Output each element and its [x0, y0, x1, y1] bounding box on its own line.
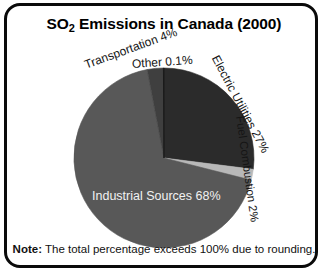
pie-label-fuel-combustion: Fuel Combustion 2%	[234, 115, 261, 222]
footnote-prefix: Note:	[13, 243, 42, 255]
pie-label-industrial-sources: Industrial Sources 68%	[92, 189, 221, 203]
pie-slice-transportation	[147, 68, 164, 158]
pie-slices	[74, 68, 254, 248]
pie-slice-electric-utilities	[164, 68, 254, 169]
pie-slice-industrial-sources	[74, 70, 251, 248]
pie-label-other: Other 0.1%	[132, 53, 194, 71]
chart-screenshot: SO2 Emissions in Canada (2000)	[0, 0, 322, 273]
pie-svg	[7, 6, 321, 271]
chart-footnote: Note: The total percentage exceeds 100% …	[7, 243, 321, 255]
pie-chart-plot: Transportation 4% Other 0.1% Electric Ut…	[7, 6, 321, 271]
chart-title-subscript: 2	[69, 22, 75, 34]
pie-slice-fuel-combustion	[164, 158, 253, 180]
chart-title: SO2 Emissions in Canada (2000)	[7, 15, 321, 33]
pie-label-electric-utilities: Electric Utilities 27%	[209, 53, 272, 156]
chart-card: SO2 Emissions in Canada (2000)	[4, 3, 318, 268]
chart-title-main: SO	[47, 15, 69, 32]
chart-title-rest: Emissions in Canada (2000)	[75, 15, 282, 32]
pie-slice-other	[163, 68, 164, 158]
footnote-text: The total percentage exceeds 100% due to…	[42, 243, 315, 255]
